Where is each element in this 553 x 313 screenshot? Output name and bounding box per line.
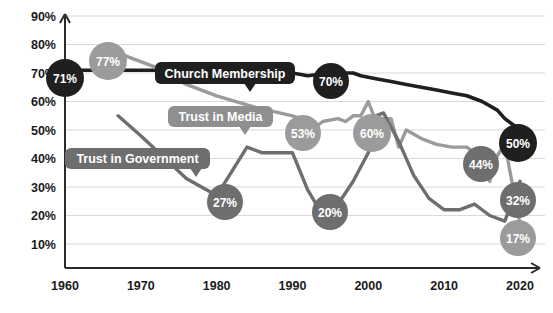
y-tick-label: 40%	[31, 152, 56, 166]
marker-value-label: 17%	[506, 232, 530, 246]
line-chart: 10%20%30%40%50%60%70%80%90% 196019701980…	[0, 0, 553, 313]
data-point-marker: 77%	[89, 42, 127, 80]
data-point-marker: 17%	[500, 220, 536, 256]
callout-trust-in-government: Trust in Government	[65, 148, 210, 177]
data-point-marker: 50%	[499, 124, 537, 162]
y-tick-label: 60%	[31, 95, 56, 109]
data-point-marker: 44%	[463, 146, 499, 182]
data-point-marker: 27%	[207, 184, 243, 220]
marker-value-label: 70%	[319, 75, 343, 89]
data-point-marker: 70%	[313, 63, 349, 99]
callout-label: Trust in Government	[76, 152, 199, 166]
callout-tail	[190, 168, 202, 177]
x-tick-label: 1990	[279, 279, 307, 293]
y-tick-label: 90%	[31, 10, 56, 24]
x-tick-label: 2020	[506, 279, 534, 293]
x-tick-label: 1980	[203, 279, 231, 293]
marker-value-label: 60%	[360, 127, 384, 141]
y-axis	[60, 14, 70, 268]
series-callout-labels: Church MembershipTrust in MediaTrust in …	[65, 62, 295, 177]
y-axis-tick-labels: 10%20%30%40%50%60%70%80%90%	[31, 10, 56, 252]
y-tick-label: 80%	[31, 38, 56, 52]
x-tick-label: 1970	[127, 279, 155, 293]
x-tick-label: 2010	[430, 279, 458, 293]
data-point-marker: 53%	[285, 115, 321, 151]
marker-value-label: 50%	[506, 137, 530, 151]
marker-value-label: 32%	[506, 194, 530, 208]
data-point-marker: 60%	[353, 114, 391, 152]
marker-value-label: 44%	[469, 158, 493, 172]
y-tick-label: 30%	[31, 181, 56, 195]
callout-label: Trust in Media	[178, 110, 263, 124]
data-point-marker: 32%	[500, 182, 536, 218]
data-point-marker: 20%	[312, 194, 348, 230]
x-tick-label: 2000	[354, 279, 382, 293]
marker-value-label: 27%	[213, 196, 237, 210]
marker-value-label: 53%	[291, 127, 315, 141]
y-tick-label: 20%	[31, 209, 56, 223]
callout-church-membership: Church Membership	[155, 62, 295, 92]
callout-label: Church Membership	[165, 67, 286, 81]
y-tick-label: 10%	[31, 238, 56, 252]
chart-container: 10%20%30%40%50%60%70%80%90% 196019701980…	[0, 0, 553, 313]
x-tick-label: 1960	[51, 279, 79, 293]
marker-value-label: 77%	[96, 55, 120, 69]
data-point-marker: 71%	[46, 59, 84, 97]
callout-tail	[244, 83, 256, 92]
x-axis-tick-labels: 1960197019801990200020102020	[51, 279, 534, 293]
x-axis	[65, 263, 540, 273]
callout-trust-in-media: Trust in Media	[168, 106, 273, 135]
marker-value-label: 20%	[318, 206, 342, 220]
marker-value-label: 71%	[53, 72, 77, 86]
y-tick-label: 50%	[31, 124, 56, 138]
